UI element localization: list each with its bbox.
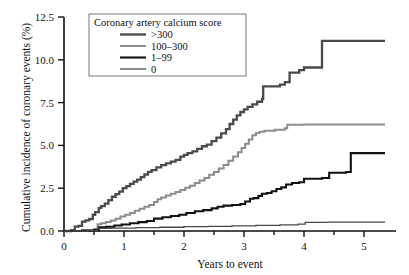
y-tick-label: 5.0 <box>40 139 54 151</box>
chart-legend: Coronary artery calcium score >300100–30… <box>89 14 246 76</box>
x-tick-label: 3 <box>241 240 247 252</box>
legend-label-3: 1–99 <box>151 52 172 63</box>
y-tick-label: 2.5 <box>40 182 54 194</box>
y-axis-ticks: 0.02.55.07.510.012.5 <box>35 11 64 237</box>
legend-label-2: 100–300 <box>151 41 188 52</box>
legend-title: Coronary artery calcium score <box>94 17 222 28</box>
y-tick-label: 0.0 <box>40 225 54 237</box>
y-tick-label: 7.5 <box>40 97 54 109</box>
x-axis-ticks: 012345 <box>61 231 367 252</box>
x-tick-label: 4 <box>301 240 307 252</box>
x-tick-label: 5 <box>361 240 367 252</box>
x-tick-label: 2 <box>181 240 187 252</box>
series-line-2 <box>64 125 385 231</box>
y-tick-label: 12.5 <box>35 11 55 23</box>
y-tick-label: 10.0 <box>35 54 55 66</box>
legend-label-1: >300 <box>151 29 173 40</box>
chart-figure: Cumulative incidence of coronary events … <box>0 0 409 275</box>
chart-canvas: Cumulative incidence of coronary events … <box>0 0 409 275</box>
x-tick-label: 0 <box>61 240 67 252</box>
y-axis-title: Cumulative incidence of coronary events … <box>20 23 33 232</box>
legend-label-4: 0 <box>151 64 156 75</box>
x-tick-label: 1 <box>121 240 127 252</box>
x-axis-title: Years to event <box>197 258 263 270</box>
